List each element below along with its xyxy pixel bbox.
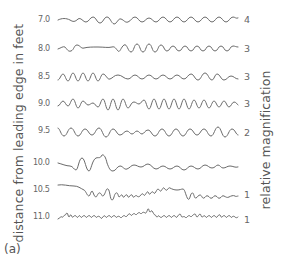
magnification-label-11-0: 1: [244, 214, 250, 225]
trace-8-5: [58, 73, 238, 81]
distance-label-10-5: 10.5: [33, 183, 50, 194]
trace-7-0: [58, 17, 238, 24]
magnification-label-9-5: 2: [244, 127, 250, 138]
magnification-axis-title: relative magnification: [258, 71, 273, 210]
trace-8-0: [58, 44, 238, 52]
magnification-label-7-0: 4: [244, 14, 250, 25]
trace-9-5: [58, 127, 238, 137]
magnification-label-8-5: 3: [244, 71, 250, 82]
distance-label-9-5: 9.5: [38, 124, 50, 135]
distance-label-11-0: 11.0: [33, 210, 50, 221]
magnification-label-9-0: 3: [244, 98, 250, 109]
distance-label-7-0: 7.0: [38, 13, 50, 24]
panel-label: (a): [4, 242, 21, 256]
distance-label-10-0: 10.0: [33, 156, 50, 167]
magnification-label-8-0: 3: [244, 43, 250, 54]
trace-9-0: [58, 99, 238, 110]
trace-10-5: [58, 185, 238, 200]
distance-label-8-0: 8.0: [38, 42, 50, 53]
distance-axis-title: distance from leading edge in feet: [11, 24, 26, 243]
distance-label-9-0: 9.0: [38, 97, 50, 108]
distance-label-8-5: 8.5: [38, 70, 50, 81]
trace-10-0: [58, 155, 238, 171]
trace-11-0: [58, 209, 238, 219]
magnification-label-10-5: 1: [244, 189, 250, 200]
oscillograph-figure: 7.0 8.0 8.5 9.0 9.5 10.0 10.5 11.0 4 3 3…: [0, 0, 282, 269]
